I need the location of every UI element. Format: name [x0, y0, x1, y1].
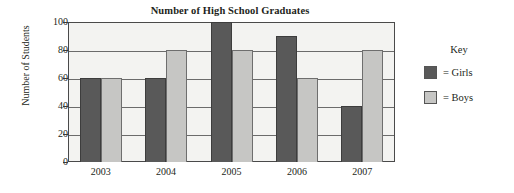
- x-axis: 20032004200520062007: [68, 166, 395, 182]
- bar-boys-2004: [166, 50, 187, 162]
- bar-boys-2003: [101, 78, 122, 162]
- legend: Key = Girls = Boys: [424, 44, 512, 115]
- bar-boys-2005: [232, 50, 253, 162]
- bar-girls-2004: [145, 78, 166, 162]
- legend-item-girls: = Girls: [424, 65, 512, 79]
- x-tick-label-2007: 2007: [330, 166, 395, 177]
- bar-girls-2003: [80, 78, 101, 162]
- boys-swatch-icon: [424, 91, 437, 104]
- x-tick-label-2003: 2003: [68, 166, 133, 177]
- girls-swatch-icon: [424, 66, 437, 79]
- y-axis-title: Number of Students: [20, 6, 31, 126]
- bar-girls-2007: [341, 106, 362, 162]
- bar-girls-2006: [276, 36, 297, 162]
- legend-item-girls-label: = Girls: [443, 67, 473, 78]
- bar-chart: Number of High School Graduates Number o…: [0, 0, 514, 193]
- bar-boys-2006: [297, 78, 318, 162]
- chart-title: Number of High School Graduates: [60, 5, 400, 16]
- y-axis: 020406080100: [30, 22, 68, 162]
- x-tick-label-2004: 2004: [133, 166, 198, 177]
- bars-layer: [68, 22, 395, 162]
- x-tick-label-2006: 2006: [264, 166, 329, 177]
- legend-item-boys-label: = Boys: [443, 92, 473, 103]
- x-tick-label-2005: 2005: [199, 166, 264, 177]
- bar-boys-2007: [362, 50, 383, 162]
- y-tick-mark-0: [63, 162, 68, 163]
- legend-item-boys: = Boys: [424, 90, 512, 104]
- bar-girls-2005: [211, 22, 232, 162]
- legend-title: Key: [428, 44, 490, 55]
